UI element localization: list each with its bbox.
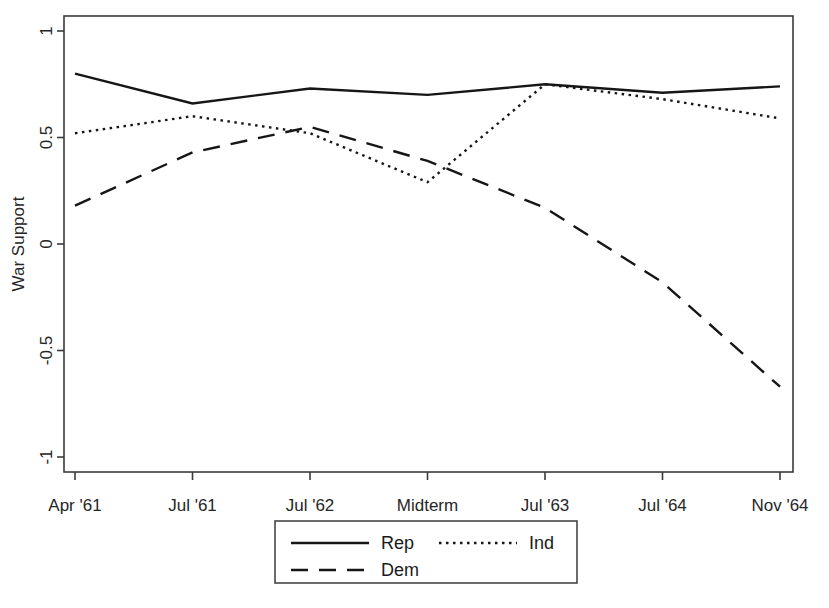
- series-line-ind: [75, 84, 780, 182]
- y-tick-label: 0: [37, 239, 56, 248]
- legend-label-dem: Dem: [381, 560, 419, 580]
- x-tick-label: Apr '61: [48, 496, 101, 515]
- y-tick-label: 0.5: [37, 126, 56, 150]
- legend-label-ind: Ind: [529, 533, 554, 553]
- y-tick-label: -0.5: [37, 336, 56, 365]
- y-tick-label: 1: [37, 26, 56, 35]
- data-series-group: [75, 74, 780, 387]
- legend-label-rep: Rep: [381, 533, 414, 553]
- y-axis-tick-labels: 1 0.5 0 -0.5 -1: [37, 26, 56, 464]
- x-tick-label: Jul '61: [168, 496, 217, 515]
- y-tick-label: -1: [37, 449, 56, 464]
- y-axis-ticks: [57, 31, 64, 457]
- chart-legend: Rep Ind Dem: [275, 521, 577, 583]
- x-tick-label: Jul '64: [638, 496, 687, 515]
- x-tick-label: Jul '63: [521, 496, 570, 515]
- y-axis-title: War Support: [9, 196, 28, 291]
- x-tick-label: Nov '64: [751, 496, 808, 515]
- x-tick-label: Midterm: [397, 496, 458, 515]
- series-line-rep: [75, 74, 780, 104]
- x-axis-ticks: [75, 472, 780, 480]
- war-support-line-chart: 1 0.5 0 -0.5 -1 War Support Apr '61 Jul …: [0, 0, 829, 608]
- x-axis-tick-labels: Apr '61 Jul '61 Jul '62 Midterm Jul '63 …: [48, 496, 808, 515]
- series-line-dem: [75, 127, 780, 387]
- x-tick-label: Jul '62: [286, 496, 335, 515]
- plot-frame: [64, 16, 793, 472]
